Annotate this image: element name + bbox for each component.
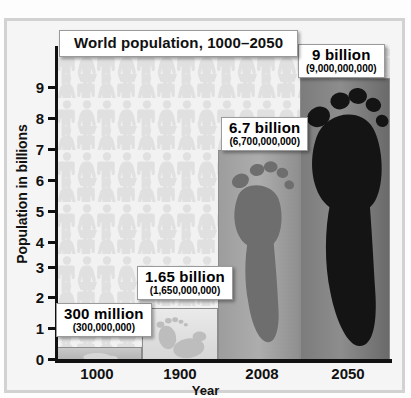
footprint-image-1900 [143,309,217,360]
y-tick-5 [48,210,56,213]
bar-1900[interactable] [142,308,218,360]
callout-2050-number: (9,000,000,000) [306,63,377,75]
callout-1000-number: (300,000,000) [64,322,144,334]
y-tick-label-2: 2 [24,290,44,305]
callout-1000-value: 300 million [64,306,144,322]
y-tick-8 [48,117,56,120]
callout-2008-value: 6.7 billion [229,120,300,136]
y-axis-title: Population in billions [14,99,30,289]
x-tick-label-2008: 2008 [222,365,302,382]
bar-2050[interactable] [300,78,390,360]
x-tick-label-1900: 1900 [140,365,220,382]
x-tick-label-2050: 2050 [308,365,388,382]
y-tick-2 [48,296,56,299]
y-tick-9 [48,86,56,89]
footprint-image-2008 [219,151,299,360]
callout-1900-value: 1.65 billion [145,269,225,285]
callout-1900: 1.65 billion (1,650,000,000) [137,266,233,300]
callout-2008-number: (6,700,000,000) [229,136,300,148]
y-tick-label-1: 1 [24,321,44,336]
x-tick-label-1000: 1000 [57,365,137,382]
chart-title: World population, 1000–2050 [74,34,283,51]
callout-2050: 9 billion (9,000,000,000) [298,44,385,78]
figure-root: 9 8 7 6 5 4 3 2 1 0 Population in billio… [0,0,411,398]
y-tick-6 [48,179,56,182]
chart-title-box: World population, 1000–2050 [59,30,298,57]
y-tick-0 [48,358,56,361]
callout-2008: 6.7 billion (6,700,000,000) [221,117,308,151]
y-tick-4 [48,241,56,244]
y-tick-7 [48,148,56,151]
y-tick-1 [48,327,56,330]
y-tick-label-0: 0 [24,352,44,367]
x-axis-line [55,359,392,363]
y-tick-3 [48,266,56,269]
bar-2008[interactable] [218,150,300,360]
footprint-image-2050 [301,79,389,360]
y-tick-label-9: 9 [24,80,44,95]
callout-2050-value: 9 billion [306,47,377,63]
x-axis-title: Year [0,383,411,398]
callout-1900-number: (1,650,000,000) [145,285,225,297]
callout-1000: 300 million (300,000,000) [56,303,152,337]
